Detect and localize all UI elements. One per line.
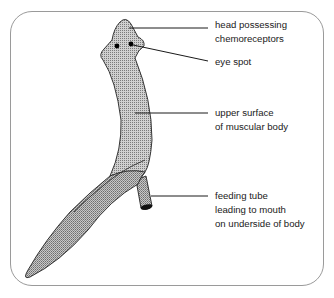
label-body-line-1: upper surface xyxy=(215,106,288,120)
label-feeding-tube: feeding tube leading to mouth on undersi… xyxy=(215,189,305,231)
eye-spot-right-icon xyxy=(129,42,134,47)
label-head-line-2: chemoreceptors xyxy=(215,32,287,46)
label-tube-line-1: feeding tube xyxy=(215,189,305,203)
eye-spot-left-icon xyxy=(115,44,120,49)
label-eye-spot: eye spot xyxy=(215,55,251,69)
eye-leader-line xyxy=(133,45,208,61)
worm-body-upper xyxy=(101,19,152,182)
label-tube-line-3: on underside of body xyxy=(215,217,305,231)
label-tube-line-2: leading to mouth xyxy=(215,203,305,217)
worm-body-tail xyxy=(25,171,145,278)
label-head: head possessing chemoreceptors xyxy=(215,18,287,46)
label-head-line-1: head possessing xyxy=(215,18,287,32)
label-eye-line-1: eye spot xyxy=(215,55,251,69)
label-body: upper surface of muscular body xyxy=(215,106,288,134)
label-body-line-2: of muscular body xyxy=(215,120,288,134)
